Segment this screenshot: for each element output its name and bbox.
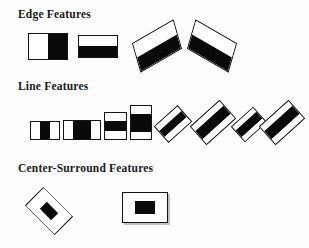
band-white xyxy=(29,34,48,59)
line-vertical-3rect-narrow xyxy=(30,121,60,140)
band-white xyxy=(105,113,126,121)
band-black xyxy=(105,121,126,132)
line-horizontal-3rect-short xyxy=(104,112,127,140)
figure-canvas: Edge Features Line Features xyxy=(0,0,309,248)
edge-rotated-2rect-left-body xyxy=(132,19,182,73)
edge-rotated-2rect-left xyxy=(132,19,182,73)
band-white xyxy=(50,122,59,139)
edge-vertical-2rect xyxy=(28,33,68,60)
line-rotated-3rect-a xyxy=(154,105,193,143)
section-title-line-features: Line Features xyxy=(18,80,88,92)
line-vertical-3rect-wide xyxy=(63,120,101,140)
band-white xyxy=(64,121,73,139)
line-rotated-3rect-b xyxy=(190,100,236,145)
center-surround-rectangle-center xyxy=(135,201,155,214)
band-white xyxy=(79,36,117,46)
edge-rotated-2rect-right xyxy=(187,19,237,73)
band-black xyxy=(40,122,49,139)
band-black xyxy=(73,121,92,139)
band-white xyxy=(105,131,126,139)
edge-horizontal-2rect xyxy=(78,35,118,58)
band-white xyxy=(91,121,100,139)
band-black xyxy=(48,34,67,59)
line-rotated-3rect-b-body xyxy=(190,100,236,145)
edge-rotated-2rect-right-body xyxy=(187,19,237,73)
line-rotated-3rect-a-body xyxy=(154,105,193,143)
section-title-edge-features: Edge Features xyxy=(18,8,91,20)
band-black xyxy=(131,114,151,132)
line-rotated-3rect-d-body xyxy=(259,100,305,145)
band-white xyxy=(31,122,40,139)
band-white xyxy=(131,106,151,114)
band-white xyxy=(131,132,151,140)
line-rotated-3rect-d xyxy=(259,100,305,145)
section-title-center-surround-features: Center-Surround Features xyxy=(18,162,153,174)
band-black xyxy=(79,46,117,57)
line-horizontal-3rect-tall xyxy=(130,105,152,140)
